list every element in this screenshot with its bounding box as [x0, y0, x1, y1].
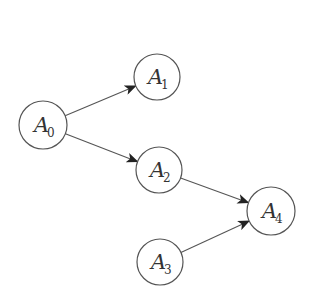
node-subscript: 3 — [164, 263, 172, 277]
edge-a0-to-a1 — [65, 86, 136, 116]
nodes-layer: A0A1A2A3A4 — [19, 54, 295, 285]
node-a4: A4 — [247, 187, 295, 235]
node-subscript: 0 — [47, 126, 55, 140]
edge-a3-to-a4 — [181, 221, 249, 252]
node-a0: A0 — [19, 101, 67, 149]
node-a3: A3 — [137, 239, 183, 285]
node-subscript: 2 — [163, 171, 171, 185]
edge-a0-to-a2 — [65, 134, 137, 162]
node-subscript: 4 — [275, 212, 283, 226]
node-a2: A2 — [136, 147, 182, 193]
node-subscript: 1 — [161, 78, 169, 92]
edge-a2-to-a4 — [181, 178, 249, 203]
node-a1: A1 — [134, 54, 180, 100]
directed-graph-diagram: A0A1A2A3A4 — [0, 0, 312, 293]
